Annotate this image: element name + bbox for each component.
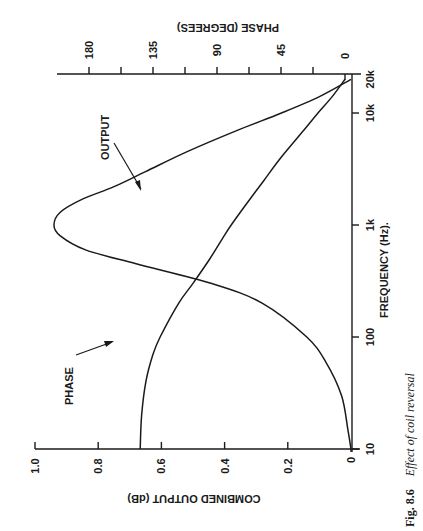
frequency-tick-label: 10 <box>364 443 376 455</box>
y-axis-label: COMBINED OUTPUT (dB) <box>127 493 261 505</box>
db-tick-label: 0 <box>345 457 357 463</box>
phase-tick-label: 180 <box>83 41 95 59</box>
x-axis-label: FREQUENCY (Hz). <box>378 222 390 318</box>
chart: 101001k10k20kFREQUENCY (Hz).00.20.40.60.… <box>0 0 423 531</box>
frequency-tick-label: 10k <box>364 103 376 122</box>
db-tick-label: 0.8 <box>92 458 104 473</box>
db-tick-label: 0.2 <box>282 458 294 473</box>
phase-curve <box>140 79 345 449</box>
phase-tick-label: 0 <box>339 53 351 59</box>
db-tick-label: 1.0 <box>29 458 41 473</box>
figure-caption-text: Effect of coil reversal <box>403 372 417 477</box>
phase-arrowhead-icon <box>104 341 114 347</box>
annotations: OUTPUTPHASE <box>63 115 141 406</box>
phase-label: PHASE <box>63 367 75 405</box>
output-label: OUTPUT <box>99 115 111 161</box>
output-arrowhead-icon <box>135 180 141 191</box>
phase-tick-label: 135 <box>147 41 159 59</box>
figure-caption: Fig. 8.6 Effect of coil reversal <box>403 372 417 527</box>
frequency-tick-label: 20k <box>364 69 376 88</box>
y2-axis-label: PHASE (DEGREES) <box>177 22 279 34</box>
axes: 101001k10k20kFREQUENCY (Hz).00.20.40.60.… <box>29 22 390 505</box>
frequency-tick-label: 1k <box>364 218 376 231</box>
figure-number: Fig. 8.6 <box>403 489 417 527</box>
db-tick-label: 0.4 <box>219 457 231 473</box>
phase-tick-label: 90 <box>211 44 223 56</box>
frequency-tick-label: 100 <box>364 328 376 346</box>
db-tick-label: 0.6 <box>155 458 167 473</box>
phase-tick-label: 45 <box>275 44 287 56</box>
